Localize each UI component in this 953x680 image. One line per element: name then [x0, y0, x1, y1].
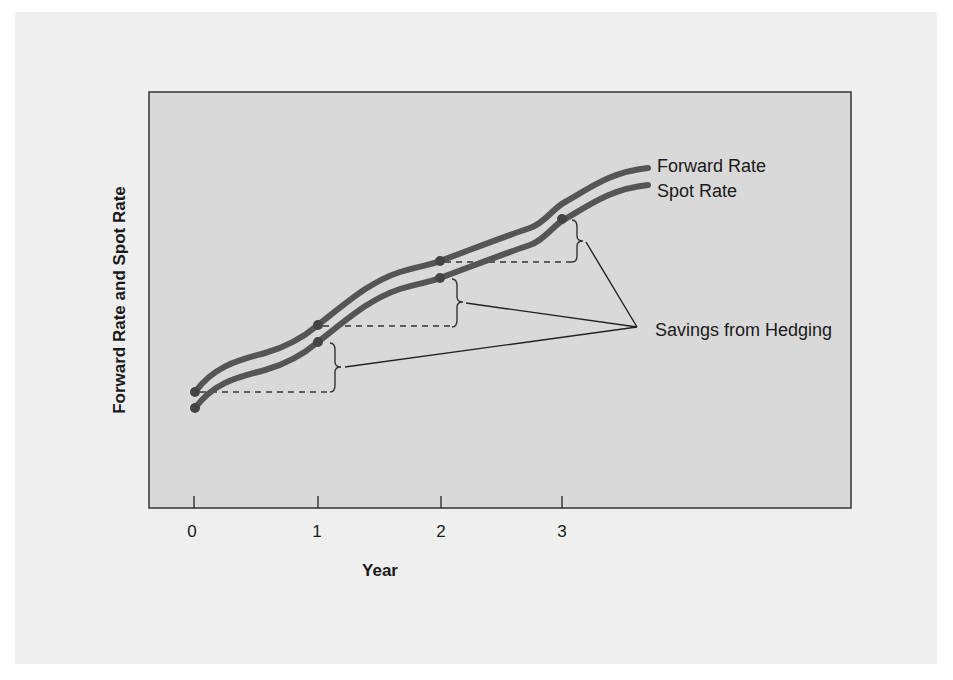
spot-marker-0	[190, 403, 200, 413]
x-tick-3: 3	[557, 522, 566, 541]
plot-area	[149, 92, 851, 508]
savings-annotation: Savings from Hedging	[655, 320, 832, 340]
forward-marker-2	[435, 256, 445, 266]
y-axis-title: Forward Rate and Spot Rate	[110, 186, 129, 414]
forward-spot-rate-diagram: 0 1 2 3 Year Forward Rate and Spot Rate	[0, 0, 953, 680]
x-tick-2: 2	[436, 522, 445, 541]
spot-marker-3	[557, 214, 567, 224]
spot-marker-2	[435, 273, 445, 283]
forward-marker-0	[190, 387, 200, 397]
x-tick-1: 1	[312, 522, 321, 541]
x-axis-title: Year	[362, 561, 398, 580]
x-tick-0: 0	[187, 522, 196, 541]
forward-rate-label: Forward Rate	[657, 156, 766, 176]
x-axis-tick-labels: 0 1 2 3	[187, 522, 566, 541]
forward-marker-1	[313, 320, 323, 330]
spot-marker-1	[313, 337, 323, 347]
spot-rate-label: Spot Rate	[657, 181, 737, 201]
